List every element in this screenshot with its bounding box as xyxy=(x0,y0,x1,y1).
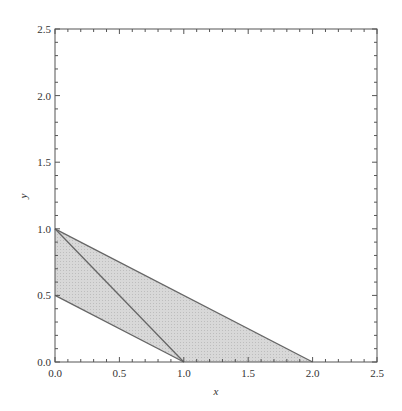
x-tick-label: 1.0 xyxy=(177,367,191,379)
x-tick-label: 0.0 xyxy=(48,367,62,379)
y-tick-label: 0.5 xyxy=(37,289,51,301)
y-tick-label: 2.0 xyxy=(37,90,51,102)
y-tick-label: 1.0 xyxy=(37,223,51,235)
x-tick-label: 2.0 xyxy=(306,367,320,379)
x-tick-label: 1.5 xyxy=(241,367,255,379)
y-tick-label: 0.0 xyxy=(37,356,51,368)
y-tick-label: 2.5 xyxy=(37,23,51,35)
y-tick-labels: 0.00.51.01.52.02.5 xyxy=(37,23,51,368)
x-tick-labels: 0.00.51.01.52.02.5 xyxy=(48,367,384,379)
y-axis-label: y xyxy=(17,193,29,199)
x-tick-label: 2.5 xyxy=(370,367,384,379)
x-tick-label: 0.5 xyxy=(113,367,127,379)
y-tick-label: 1.5 xyxy=(37,156,51,168)
x-axis-label: x xyxy=(213,385,219,397)
chart: 0.00.51.01.52.02.5 0.00.51.01.52.02.5 x … xyxy=(0,0,402,411)
